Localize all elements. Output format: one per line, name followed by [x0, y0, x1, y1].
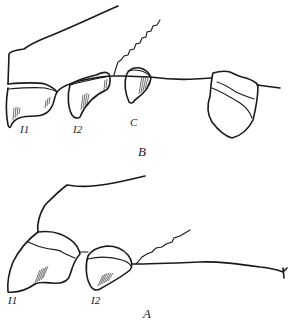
panel-a-gum-line	[132, 262, 287, 278]
panel-b-suture-line	[114, 20, 160, 75]
illustration-canvas: I1 I2 C B I1 I2 A	[0, 0, 289, 322]
panel-b-molar-line-1	[217, 82, 254, 99]
panel-a-label-i1: I1	[7, 294, 17, 306]
panel-a-suture-line	[136, 230, 190, 264]
panel-a-tooth-i1	[8, 231, 80, 292]
panel-b: I1 I2 C B	[7, 6, 281, 159]
panel-b-gum-line	[8, 76, 280, 92]
panel-b-label-c: C	[130, 116, 138, 128]
panel-b-label-i2: I2	[72, 123, 83, 135]
panel-b-label-i1: I1	[19, 123, 29, 135]
panel-a-jaw-outline	[38, 176, 145, 232]
panel-b-label: B	[138, 144, 146, 159]
panel-a-tooth-i2	[86, 246, 131, 290]
panel-a: I1 I2 A	[7, 176, 287, 321]
panel-b-tooth-molar	[208, 71, 258, 138]
panel-a-tooth-i2-hatching	[98, 273, 113, 286]
panel-a-tooth-i2-crown-line	[88, 257, 131, 266]
panel-b-tooth-i2-hatching	[81, 79, 107, 110]
panel-b-tooth-i1-crown-line	[8, 88, 57, 92]
panel-b-tooth-i1	[7, 88, 58, 127]
panel-a-tooth-i1-crown-line	[28, 242, 75, 258]
panel-a-label: A	[142, 306, 151, 321]
dental-illustration: I1 I2 C B I1 I2 A	[0, 0, 289, 322]
panel-a-label-i2: I2	[90, 294, 101, 306]
panel-a-tooth-i1-hatching	[35, 266, 48, 283]
panel-b-molar-line-2	[212, 88, 252, 118]
